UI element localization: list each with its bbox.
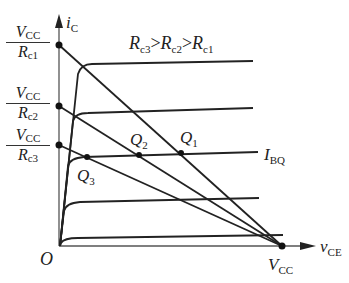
- x-axis-arrow-icon: [300, 242, 316, 250]
- q2-symbol: Q: [130, 130, 142, 149]
- rc1-symbol: R: [192, 33, 203, 53]
- characteristic-curves: [60, 61, 283, 246]
- ibq-symbol: I: [264, 145, 270, 164]
- greater-than: >: [182, 33, 192, 53]
- rc3-sub: c3: [140, 43, 150, 55]
- x-axis-label: vCE: [320, 238, 342, 255]
- denominator-sub: c3: [28, 152, 38, 164]
- fraction-vcc-rc3: VCC Rc3: [6, 127, 50, 164]
- q3-label: Q3: [77, 167, 95, 184]
- numerator-sub: CC: [26, 29, 41, 41]
- numerator-sub: CC: [26, 132, 41, 144]
- x-axis-symbol: v: [320, 237, 328, 256]
- y-axis-label: iC: [66, 14, 78, 31]
- numerator: V: [16, 23, 26, 40]
- q3-symbol: Q: [77, 166, 89, 185]
- fraction-bar: [6, 42, 50, 43]
- rc2-symbol: R: [161, 33, 172, 53]
- ibq-subscript: BQ: [270, 154, 285, 166]
- load-line-rc1: [59, 45, 282, 246]
- vcc-dot: [279, 243, 286, 250]
- denominator: R: [18, 146, 28, 163]
- vcc-symbol: V: [268, 255, 278, 274]
- denominator: R: [18, 104, 28, 121]
- rc3-symbol: R: [129, 33, 140, 53]
- load-lines: [59, 45, 282, 246]
- denominator: R: [18, 43, 28, 60]
- fraction-bar: [6, 145, 50, 146]
- rc1-sub: c1: [203, 43, 213, 55]
- fraction-vcc-rc1: VCC Rc1: [6, 24, 50, 61]
- resistance-relation: Rc3>Rc2>Rc1: [129, 34, 213, 52]
- intercept-rc3-dot: [56, 142, 63, 149]
- numerator: V: [16, 84, 26, 101]
- q1-label: Q1: [180, 129, 198, 146]
- q2-subscript: 2: [142, 139, 148, 151]
- rc2-sub: c2: [172, 43, 182, 55]
- curve-5: [60, 235, 283, 246]
- numerator-sub: CC: [26, 90, 41, 102]
- q1-symbol: Q: [180, 128, 192, 147]
- y-axis-arrow-icon: [55, 14, 63, 28]
- fraction-vcc-rc2: VCC Rc2: [6, 85, 50, 122]
- q1-dot: [178, 150, 184, 156]
- origin-label: O: [40, 250, 53, 268]
- y-axis-subscript: C: [71, 22, 78, 34]
- load-line-rc3: [59, 145, 282, 246]
- x-axis-subscript: CE: [328, 246, 342, 258]
- q3-dot: [84, 154, 90, 160]
- greater-than: >: [150, 33, 160, 53]
- vcc-subscript: CC: [278, 264, 293, 276]
- q3-subscript: 3: [89, 175, 95, 187]
- q1-subscript: 1: [192, 137, 198, 149]
- vcc-x-label: VCC: [268, 256, 293, 273]
- q2-dot: [136, 152, 142, 158]
- q2-label: Q2: [130, 131, 148, 148]
- denominator-sub: c2: [28, 110, 38, 122]
- ibq-label: IBQ: [264, 146, 285, 163]
- numerator: V: [16, 126, 26, 143]
- intercept-rc2-dot: [56, 103, 63, 110]
- denominator-sub: c1: [28, 49, 38, 61]
- fraction-bar: [6, 103, 50, 104]
- intercept-rc1-dot: [56, 42, 63, 49]
